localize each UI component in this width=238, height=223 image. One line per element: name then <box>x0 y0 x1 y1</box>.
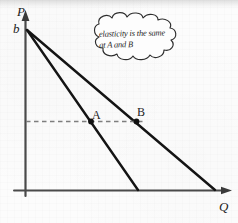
q-axis-label: Q <box>219 200 228 213</box>
elasticity-figure: P Q b A B elasticity is the same at A an… <box>0 0 238 223</box>
point-b-marker <box>134 119 140 125</box>
point-label-b: B <box>137 106 145 118</box>
q-axis-arrowhead <box>221 187 232 194</box>
thought-cloud-text: elasticity is the same at A and B <box>99 27 171 51</box>
p-axis-label: P <box>17 5 25 18</box>
y-intercept-label-b: b <box>13 22 20 35</box>
point-label-a: A <box>92 109 101 121</box>
